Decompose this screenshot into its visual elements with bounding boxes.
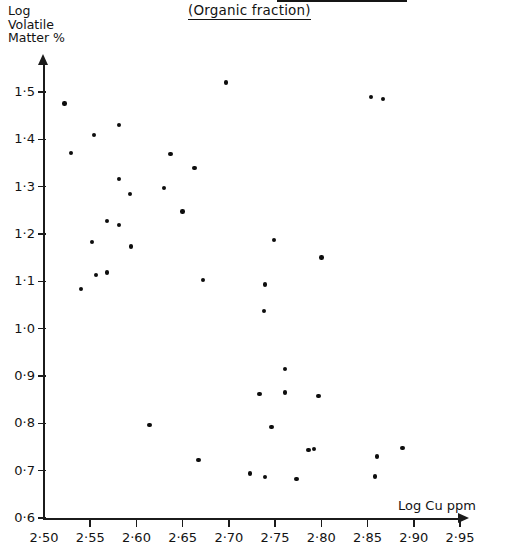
- data-point: [62, 101, 66, 105]
- data-point: [192, 166, 196, 170]
- data-point: [147, 423, 151, 427]
- data-point: [201, 278, 205, 282]
- data-point: [128, 192, 132, 196]
- data-point: [105, 219, 109, 223]
- data-point: [180, 209, 184, 213]
- data-point: [162, 186, 166, 190]
- data-point: [79, 287, 83, 291]
- data-point: [129, 244, 133, 248]
- data-point: [294, 477, 298, 481]
- data-point: [117, 177, 121, 181]
- data-point: [92, 133, 96, 137]
- data-point: [90, 240, 94, 244]
- data-point: [168, 152, 172, 156]
- data-point: [117, 123, 121, 127]
- data-point: [105, 270, 109, 274]
- data-point: [283, 367, 287, 371]
- data-point: [312, 447, 316, 451]
- data-point: [224, 80, 228, 84]
- data-point: [373, 474, 377, 478]
- data-point: [196, 458, 200, 462]
- data-point: [400, 446, 404, 450]
- data-point: [263, 282, 267, 286]
- data-point: [375, 454, 379, 458]
- data-point: [306, 448, 310, 452]
- data-point: [269, 425, 273, 429]
- data-point: [283, 390, 287, 394]
- data-point: [248, 471, 252, 475]
- data-point: [262, 309, 266, 313]
- data-point: [257, 392, 261, 396]
- data-point: [369, 95, 373, 99]
- data-point: [319, 255, 323, 259]
- data-point: [263, 475, 267, 479]
- data-point: [117, 223, 121, 227]
- data-points-layer: [0, 0, 511, 553]
- data-point: [69, 151, 73, 155]
- data-point: [272, 238, 276, 242]
- data-point: [316, 394, 320, 398]
- scatter-plot-figure: (Organic fraction) Log Volatile Matter %…: [0, 0, 511, 553]
- data-point: [94, 273, 98, 277]
- data-point: [381, 97, 385, 101]
